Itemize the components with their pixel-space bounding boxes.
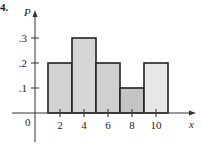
x-tick-label: 6 [105,119,111,131]
bars-group [48,38,168,113]
x-tick-label: 2 [57,119,63,131]
x-tick-label: 4 [81,119,87,131]
bar-3-5 [72,38,96,113]
bar-9-11 [144,63,168,113]
y-tick-label: .3 [19,32,28,44]
origin-label: 0 [25,116,31,128]
histogram-chart: 4. 246810.1.2.3 P x 0 [0,0,202,149]
x-tick-label: 10 [151,119,163,131]
problem-number: 4. [0,1,9,13]
x-axis-label: x [188,118,194,130]
y-axis-label: P [23,6,31,18]
y-tick-label: .1 [19,82,27,94]
y-axis-arrow-icon [33,10,38,17]
x-tick-label: 8 [129,119,135,131]
bar-5-7 [96,63,120,113]
x-axis-arrow-icon [189,111,196,116]
bar-1-3 [48,63,72,113]
y-tick-label: .2 [19,57,27,69]
